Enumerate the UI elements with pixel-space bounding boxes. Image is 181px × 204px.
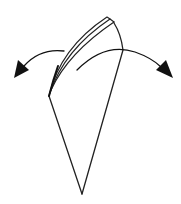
layered-tips bbox=[49, 17, 114, 96]
layer-2 bbox=[50, 19, 114, 93]
arrow-right-arc bbox=[77, 49, 161, 70]
arrow-right-head bbox=[156, 60, 173, 78]
folding-diagram bbox=[0, 0, 181, 204]
arrow-left-arc bbox=[24, 51, 64, 66]
layer-1 bbox=[49, 17, 110, 96]
cone-right-edge bbox=[82, 23, 123, 194]
layer-thick-edge bbox=[49, 66, 58, 96]
cone-left-edge bbox=[49, 96, 82, 194]
folded-shape bbox=[49, 23, 123, 194]
layer-3 bbox=[51, 22, 114, 90]
arrow-right bbox=[77, 49, 173, 78]
